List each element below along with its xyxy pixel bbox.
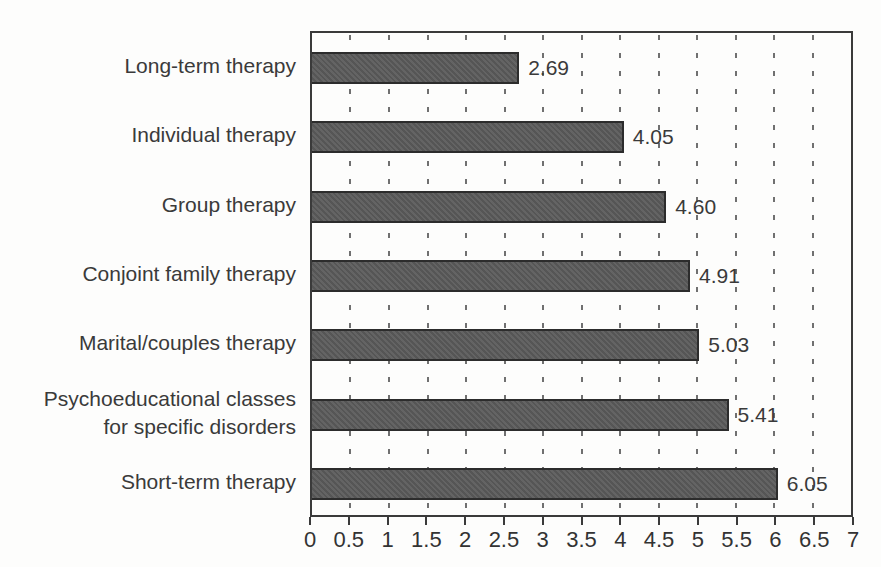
category-label: Psychoeducational classes for specific d… [0,385,296,440]
bar [312,191,666,223]
axis-tick-label: 3.5 [566,527,597,553]
category-label: Group therapy [0,191,296,219]
axis-tick-label: 0.5 [333,527,364,553]
gridline [773,35,775,513]
axis-tick-label: 6 [769,527,781,553]
category-label: Marital/couples therapy [0,330,296,358]
category-label: Short-term therapy [0,468,296,496]
axis-tick-label: 2 [459,527,471,553]
bar-value-label: 6.05 [787,472,828,496]
axis-tick [581,517,583,525]
plot-area: 2.694.054.604.915.035.416.05 [310,31,853,517]
axis-tick-label: 3 [537,527,549,553]
gridline [696,35,698,513]
axis-tick [387,517,389,525]
bar [312,52,519,84]
axis-tick [774,517,776,525]
bar-chart-figure: 2.694.054.604.915.035.416.05 Long-term t… [0,0,881,567]
axis-tick [542,517,544,525]
axis-tick-label: 0 [304,527,316,553]
axis-tick [697,517,699,525]
axis-tick [813,517,815,525]
axis-tick [503,517,505,525]
category-label: Conjoint family therapy [0,260,296,288]
bar-value-label: 5.03 [708,333,749,357]
axis-tick [619,517,621,525]
axis-tick [425,517,427,525]
bar [312,468,778,500]
axis-tick-label: 1.5 [411,527,442,553]
gridline [812,35,814,513]
bar [312,399,729,431]
axis-tick-label: 4.5 [644,527,675,553]
bar-value-label: 4.60 [675,195,716,219]
axis-tick-label: 1 [381,527,393,553]
bar [312,329,699,361]
axis-tick-label: 5 [692,527,704,553]
bar-value-label: 2.69 [528,56,569,80]
axis-tick-label: 5.5 [721,527,752,553]
axis-tick [736,517,738,525]
axis-tick [658,517,660,525]
axis-tick [348,517,350,525]
axis-tick-label: 2.5 [489,527,520,553]
axis-tick [309,517,311,525]
bar-value-label: 4.91 [699,264,740,288]
category-label: Individual therapy [0,121,296,149]
bar-value-label: 4.05 [633,125,674,149]
axis-tick [464,517,466,525]
bar [312,121,624,153]
bar-value-label: 5.41 [738,403,779,427]
category-label: Long-term therapy [0,52,296,80]
axis-tick-label: 6.5 [799,527,830,553]
axis-tick [852,517,854,525]
axis-tick-label: 7 [847,527,859,553]
bar [312,260,690,292]
axis-tick-label: 4 [614,527,626,553]
